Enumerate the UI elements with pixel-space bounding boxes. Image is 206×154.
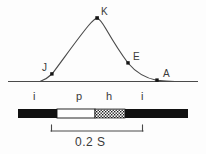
waveform-curve bbox=[40, 18, 175, 82]
scale-bar-label: 0.2 S bbox=[75, 136, 106, 148]
bar-segment-black-right bbox=[125, 109, 188, 118]
point-label-J: J bbox=[42, 63, 47, 73]
point-marker-E bbox=[126, 61, 129, 64]
point-label-K: K bbox=[101, 7, 108, 17]
figure-canvas bbox=[0, 0, 206, 154]
point-marker-J bbox=[50, 72, 53, 75]
point-marker-K bbox=[95, 16, 99, 20]
point-label-E: E bbox=[133, 52, 140, 62]
interval-label-i-left: i bbox=[33, 91, 35, 102]
bar-segment-hatched bbox=[95, 109, 125, 118]
waveform-figure: J K E A i p h i 0.2 S bbox=[0, 0, 206, 154]
interval-label-h: h bbox=[106, 91, 112, 102]
point-marker-A bbox=[155, 78, 158, 81]
bar-segment-white bbox=[57, 109, 95, 118]
bar-segment-black-left bbox=[18, 109, 57, 118]
interval-label-i-right: i bbox=[141, 91, 143, 102]
interval-label-p: p bbox=[76, 91, 82, 102]
point-label-A: A bbox=[163, 69, 170, 79]
scale-bracket bbox=[51, 125, 143, 131]
